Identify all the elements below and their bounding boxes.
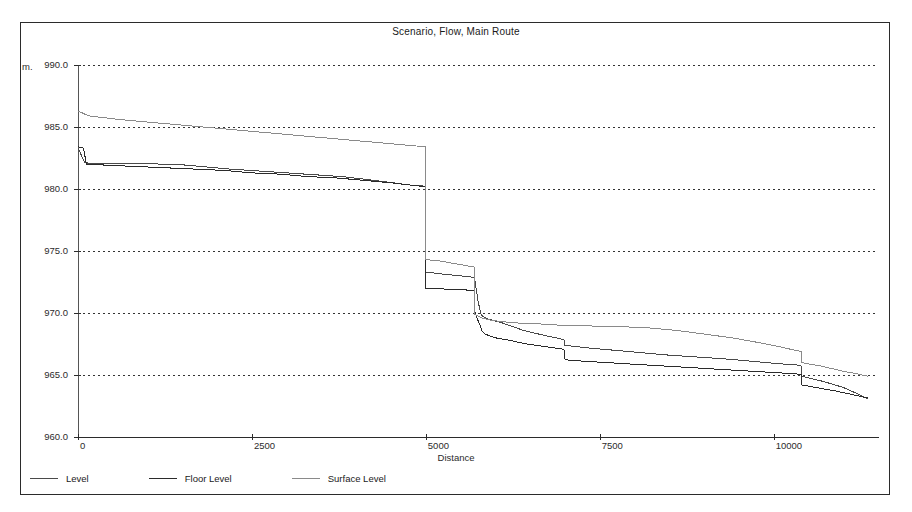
x-tick-label: 2500	[254, 440, 275, 451]
plot-area	[78, 65, 878, 437]
series-paths	[78, 111, 868, 399]
y-tick-label: 990.0	[26, 59, 68, 70]
legend-swatch-icon	[149, 478, 177, 479]
x-tick-label: 7500	[602, 440, 623, 451]
legend-swatch-icon	[292, 478, 320, 479]
x-axis-title: Distance	[0, 452, 912, 463]
gridlines	[78, 66, 878, 438]
legend-entry-surface-level[interactable]: Surface Level	[292, 473, 386, 484]
legend-label: Surface Level	[328, 473, 386, 484]
legend-entry-floor-level[interactable]: Floor Level	[149, 473, 232, 484]
series-line-surface-level	[78, 111, 868, 376]
plot-svg	[78, 65, 878, 437]
y-tick-label: 975.0	[26, 245, 68, 256]
y-tick-label: 985.0	[26, 121, 68, 132]
x-tick-label: 10000	[776, 440, 802, 451]
legend-label: Level	[66, 473, 89, 484]
y-tick-label: 965.0	[26, 369, 68, 380]
x-tick-label: 0	[80, 440, 85, 451]
y-tick-label: 970.0	[26, 307, 68, 318]
chart-title: Scenario, Flow, Main Route	[0, 26, 912, 37]
legend-entry-level[interactable]: Level	[30, 473, 89, 484]
y-tick-label: 980.0	[26, 183, 68, 194]
x-axis-line	[78, 437, 879, 438]
legend-swatch-icon	[30, 478, 58, 479]
x-tick-label: 5000	[428, 440, 449, 451]
legend-label: Floor Level	[185, 473, 232, 484]
chart-legend: LevelFloor LevelSurface Level	[30, 470, 386, 486]
series-line-floor-level	[78, 147, 868, 398]
y-tick-label: 960.0	[26, 431, 68, 442]
series-line-level	[78, 148, 868, 398]
